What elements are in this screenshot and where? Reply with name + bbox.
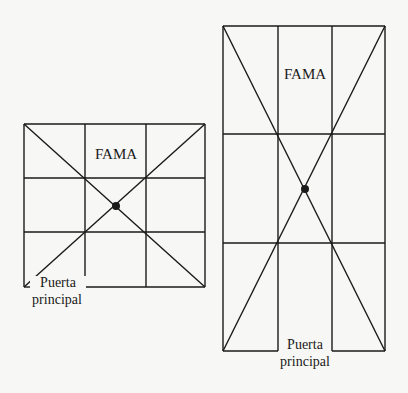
door-label-line1: Puerta <box>287 337 324 352</box>
diagram-canvas: FAMA Puerta principal FAMA Puerta princi… <box>0 0 408 393</box>
square-plan: FAMA Puerta principal <box>24 124 205 314</box>
fama-label: FAMA <box>284 66 326 82</box>
door-label-line2: principal <box>32 292 82 307</box>
rectangular-plan: FAMA Puerta principal <box>223 26 385 369</box>
door-label-line2: principal <box>280 354 330 369</box>
center-point <box>301 185 309 193</box>
center-point <box>112 202 120 210</box>
fama-label: FAMA <box>95 146 137 162</box>
door-label-line1: Puerta <box>40 275 77 290</box>
